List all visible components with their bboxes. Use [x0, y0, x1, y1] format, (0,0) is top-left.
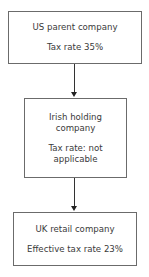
uk-retail-company-box: UK retail company Effective tax rate 23%: [13, 212, 137, 266]
arrow-line-2: [74, 178, 75, 207]
arrow-down-icon: [71, 92, 77, 97]
node-tax-rate-line1: Tax rate: not: [48, 143, 102, 154]
node-title: UK retail company: [35, 224, 114, 235]
node-title-line1: Irish holding: [49, 112, 102, 123]
node-tax-rate: Effective tax rate 23%: [27, 244, 123, 255]
node-title: US parent company: [33, 22, 118, 33]
arrow-line-1: [74, 64, 75, 93]
node-tax-rate-line2: applicable: [53, 154, 97, 165]
node-tax-rate: Tax rate 35%: [47, 42, 103, 53]
us-parent-company-box: US parent company Tax rate 35%: [8, 11, 142, 64]
irish-holding-company-box: Irish holding company Tax rate: not appl…: [24, 98, 127, 178]
arrow-down-icon: [71, 206, 77, 211]
node-title-line2: company: [56, 123, 96, 134]
